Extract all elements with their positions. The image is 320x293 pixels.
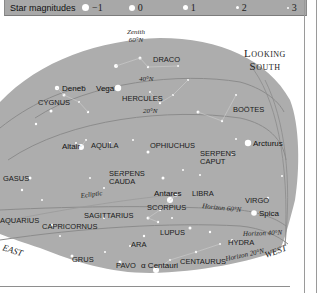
- constellation-sagittarius: SAGITTARIUS: [84, 211, 133, 220]
- constellation-bootes: BOÖTES: [233, 105, 264, 114]
- constellation-aquila: AQUILA: [91, 141, 119, 150]
- constellation-pavo: PAVO: [116, 261, 136, 270]
- latitude-20-label: 20°N: [143, 107, 158, 115]
- constellation-capricornus: CAPRICORNUS: [42, 222, 97, 231]
- constellation-cygnus: CYGNUS: [38, 98, 70, 107]
- constellation-ophiuchus: OPHIUCHUS: [150, 141, 195, 150]
- star-spica: Spica: [259, 209, 280, 218]
- constellation-serpens-caput-2: CAPUT: [200, 157, 226, 166]
- constellation-serpens-cauda-2: CAUDA: [109, 177, 135, 186]
- constellation-ara: ARA: [131, 240, 146, 249]
- sky-chart: Zenith 60°N DRACO 40°N 20°N Deneb Vega C…: [0, 0, 320, 293]
- constellation-pegasus: GASUS: [3, 174, 29, 183]
- constellation-grus: GRUS: [72, 255, 94, 264]
- star-antares: Antares: [154, 189, 182, 198]
- star-arcturus: Arcturus: [253, 139, 283, 148]
- star-alpha-centauri: α Centauri: [141, 261, 178, 270]
- east-label: EAST: [0, 242, 24, 258]
- constellation-hydra: HYDRA: [228, 238, 254, 247]
- constellation-draco: DRACO: [153, 55, 180, 64]
- star-deneb: Deneb: [62, 84, 86, 93]
- zenith-latitude-label: 60°N: [129, 36, 144, 44]
- heading-looking: Looking: [244, 47, 286, 59]
- constellation-libra: LIBRA: [192, 189, 214, 198]
- zenith-label: Zenith: [127, 28, 145, 36]
- constellation-centaurus: CENTAURUS: [180, 257, 226, 266]
- constellation-scorpius: SCORPIUS: [147, 203, 186, 212]
- star-vega: Vega: [96, 84, 115, 93]
- constellation-hercules: HERCULES: [122, 94, 163, 103]
- star-altair: Altair: [62, 142, 81, 151]
- horizon-40-label: Horizon 40°N: [242, 229, 283, 238]
- constellation-aquarius: AQUARIUS: [0, 216, 39, 225]
- constellation-lupus: LUPUS: [160, 228, 185, 237]
- constellation-virgo: VIRGO: [245, 196, 269, 205]
- latitude-40-label: 40°N: [139, 75, 154, 83]
- heading-south: South: [250, 60, 281, 72]
